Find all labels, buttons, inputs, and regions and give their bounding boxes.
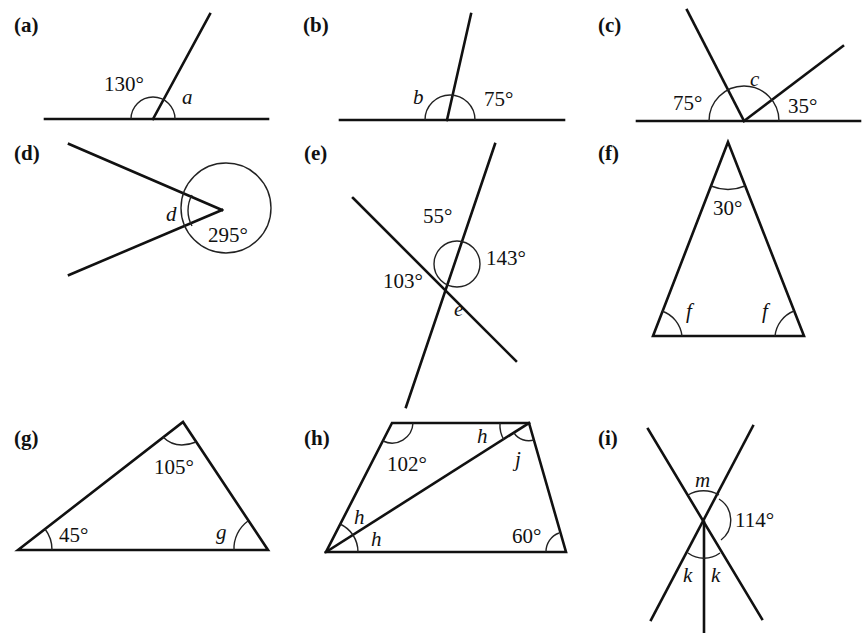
part-b: (b) b 75°: [303, 13, 564, 120]
angle-circle: [434, 241, 480, 287]
angle-143: 143°: [486, 246, 526, 270]
ray: [447, 14, 471, 120]
angle-60: 60°: [512, 524, 541, 548]
angle-c: c: [750, 67, 760, 91]
diagonal: [326, 423, 529, 552]
part-b-label: (b): [303, 13, 329, 37]
part-a: (a) 130° a: [14, 13, 268, 119]
angle-a: a: [182, 85, 193, 109]
angle-75: 75°: [673, 91, 702, 115]
angle-105: 105°: [154, 455, 194, 479]
part-e-label: (e): [304, 141, 327, 165]
angle-h-left-upper: h: [354, 505, 365, 529]
angle-k-right: k: [711, 563, 721, 587]
left-upper-arc: [340, 524, 353, 535]
angle-k-left: k: [683, 563, 693, 587]
part-h-label: (h): [304, 426, 330, 450]
angle-130: 130°: [104, 72, 144, 96]
angle-114-arc: [719, 499, 731, 540]
angle-j: j: [512, 447, 521, 471]
right-arc: [234, 521, 248, 550]
angle-102: 102°: [387, 452, 427, 476]
angle-m: m: [695, 468, 710, 492]
left-lower-arc: [353, 535, 358, 552]
ray-upper: [69, 144, 222, 210]
angle-45: 45°: [59, 523, 88, 547]
angle-30: 30°: [713, 196, 742, 220]
part-c: (c) 75° c 35°: [598, 10, 860, 121]
angle-e: e: [454, 297, 463, 321]
angle-103: 103°: [383, 269, 423, 293]
isosceles-triangle: [653, 142, 804, 336]
base-right-arc: [775, 311, 794, 336]
angle-f-right: f: [762, 299, 771, 323]
angle-arc: [131, 97, 175, 119]
triangle: [18, 422, 268, 550]
base-left-arc: [662, 311, 682, 336]
part-g-label: (g): [14, 426, 39, 450]
angle-g: g: [216, 520, 227, 544]
angle-d: d: [166, 202, 177, 226]
angle-35: 35°: [788, 94, 817, 118]
part-a-label: (a): [14, 13, 39, 37]
part-h: (h) 102° h j h h 60°: [304, 423, 566, 552]
part-i: (i) m 114° k k: [598, 426, 774, 633]
part-c-label: (c): [598, 13, 621, 37]
part-e: (e) 55° 143° 103° e: [304, 141, 526, 407]
angle-arc: [188, 195, 192, 226]
part-f-label: (f): [598, 141, 619, 165]
part-d-label: (d): [14, 141, 40, 165]
part-g: (g) 105° 45° g: [14, 422, 268, 550]
angle-exercise-sheet: (a) 130° a (b) b 75° (c) 75° c 35° (d) d…: [0, 0, 867, 633]
angle-h-left-lower: h: [371, 527, 382, 551]
angle-h-top: h: [477, 424, 488, 448]
angle-b: b: [413, 85, 424, 109]
apex-arc: [163, 437, 196, 445]
angle-75: 75°: [484, 87, 513, 111]
apex-arc: [711, 186, 745, 190]
ray-lower: [69, 210, 222, 275]
part-f: (f) 30° f f: [598, 141, 804, 336]
angle-114: 114°: [735, 508, 774, 532]
angle-295: 295°: [208, 223, 248, 247]
bottom-right-arc: [546, 533, 559, 552]
left-arc: [45, 529, 52, 550]
part-i-label: (i): [598, 426, 618, 450]
angle-55: 55°: [423, 204, 452, 228]
part-d: (d) d 295°: [14, 141, 271, 275]
angle-f-left: f: [686, 299, 695, 323]
top-right-h-arc: [500, 423, 504, 440]
